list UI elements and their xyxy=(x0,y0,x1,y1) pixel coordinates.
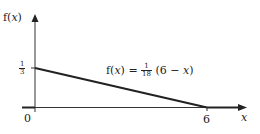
y-axis-label: f(x) xyxy=(3,12,22,23)
function-label: f(x) = 118 (6 − x) xyxy=(106,63,194,78)
y-axis-arrow-icon xyxy=(32,14,39,22)
x-tick-label-6: 6 xyxy=(203,114,210,125)
y-tick-label: 13 xyxy=(19,61,25,76)
x-axis-label: x xyxy=(241,112,247,123)
origin-label: 0 xyxy=(24,113,31,124)
x-axis-arrow-icon xyxy=(238,104,247,111)
